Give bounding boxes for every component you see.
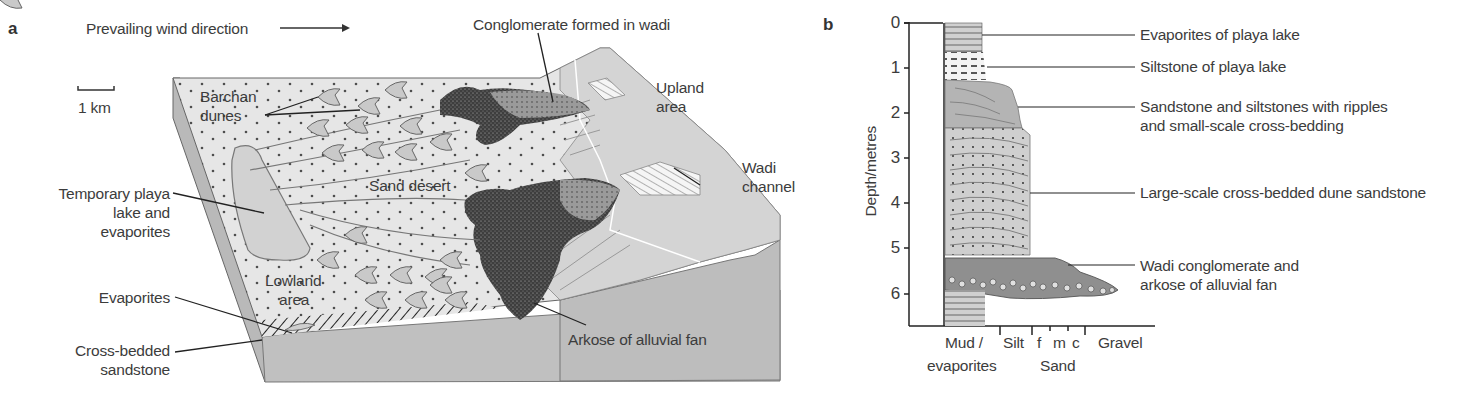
label-temporary-playa: Temporary playa lake and evaporites (20, 184, 170, 241)
scale-label: 1 km (78, 98, 111, 117)
panel-b-letter: b (823, 15, 833, 35)
wind-arrow-icon (280, 24, 350, 32)
label-sand-desert: Sand desert (369, 176, 450, 195)
depth-tick-3: 3 (880, 148, 900, 167)
label-barchan-dunes: Barchan dunes (200, 87, 256, 125)
depth-tick-6: 6 (880, 284, 900, 303)
grain-gravel: Gravel (1098, 333, 1142, 352)
grain-coarse: c (1072, 333, 1080, 352)
depth-tick-1: 1 (880, 58, 900, 77)
label-wadi-channel: Wadi channel (742, 158, 795, 196)
label-conglomerate-wadi: Conglomerate formed in wadi (473, 15, 670, 34)
label-arkose-fan: Arkose of alluvial fan (568, 330, 707, 349)
depth-tick-2: 2 (880, 103, 900, 122)
depth-tick-5: 5 (880, 238, 900, 257)
label-cross-bedded-sandstone: Cross-bedded sandstone (20, 341, 170, 379)
unit-label-evaporites-playa: Evaporites of playa lake (1140, 25, 1300, 44)
unit-label-siltstone-playa: Siltstone of playa lake (1140, 57, 1286, 76)
label-lowland-area: Lowland area (265, 271, 321, 309)
depth-axis-label: Depth/metres (861, 127, 880, 217)
grain-sand: Sand (1040, 356, 1075, 375)
unit-label-wadi-conglomerate: Wadi conglomerate and arkose of alluvial… (1140, 256, 1299, 294)
depth-tick-4: 4 (880, 193, 900, 212)
unit-label-dune-sandstone: Large-scale cross-bedded dune sandstone (1140, 183, 1426, 202)
label-upland-area: Upland area (656, 78, 704, 116)
grain-mud: Mud / (945, 333, 983, 352)
grain-silt: Silt (1003, 333, 1024, 352)
grain-evaporites: evaporites (927, 356, 997, 375)
label-evaporites: Evaporites (20, 288, 170, 307)
unit-label-sandstone-siltstones: Sandstone and siltstones with ripples an… (1140, 97, 1388, 135)
depth-tick-0: 0 (880, 13, 900, 32)
scale-bar-icon (78, 86, 114, 90)
stratigraphic-column (904, 22, 1155, 335)
grain-medium: m (1053, 333, 1066, 352)
grain-fine: f (1037, 333, 1041, 352)
